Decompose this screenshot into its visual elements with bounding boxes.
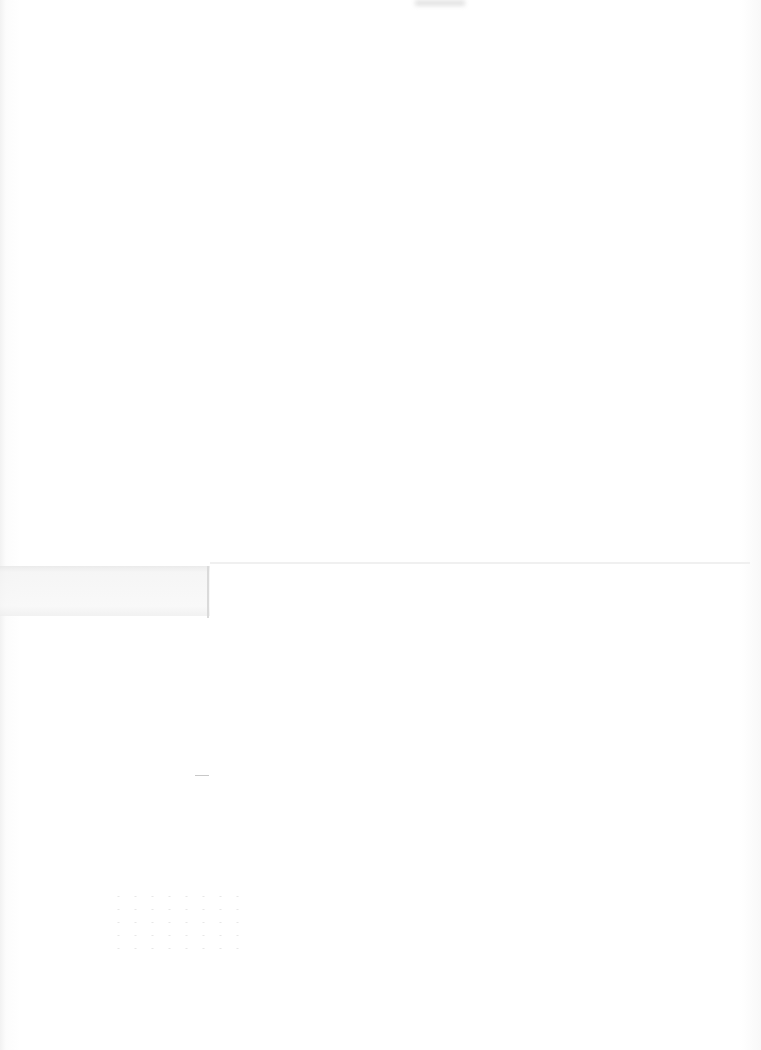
bleed-through-edge — [207, 566, 209, 618]
blank-scanned-page — [0, 0, 761, 1050]
bleed-through-line — [210, 562, 750, 564]
scan-smudge — [415, 0, 465, 6]
bleed-through-band — [0, 566, 210, 616]
scan-specks — [110, 890, 250, 950]
faint-mark — [195, 775, 209, 776]
